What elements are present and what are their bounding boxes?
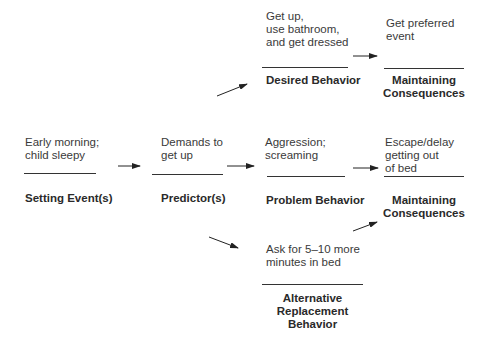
- arrow-predictor-to-alternative: [209, 237, 238, 248]
- arrow-alternative-to-consequence: [353, 222, 377, 231]
- arrow-predictor-to-desired: [217, 84, 247, 96]
- connector-arrows: [0, 0, 484, 344]
